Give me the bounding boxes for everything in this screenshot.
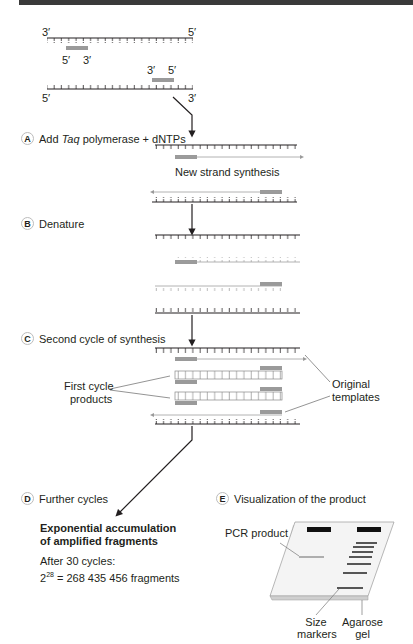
agarose-gel bbox=[270, 522, 394, 600]
step-a-badge: A bbox=[21, 132, 34, 145]
step-b-badge: B bbox=[21, 217, 34, 230]
label-primer2-5prime: 5′ bbox=[168, 64, 176, 77]
step-b: B Denature bbox=[21, 217, 84, 230]
step-d: D Further cycles bbox=[21, 492, 108, 505]
pcr-product-label: PCR product bbox=[225, 527, 288, 540]
first-cycle-product-1 bbox=[175, 366, 282, 384]
step-c-badge: C bbox=[21, 332, 34, 345]
step-a-label-post: polymerase + dNTPs bbox=[80, 133, 186, 145]
label-primer1-3prime: 3′ bbox=[83, 54, 91, 67]
step-a: A Add Taq polymerase + dNTPs bbox=[21, 132, 186, 145]
label-3prime-top: 3′ bbox=[42, 26, 50, 39]
step-e: E Visualization of the product bbox=[216, 492, 366, 505]
label-5prime-bottom: 5′ bbox=[42, 92, 50, 105]
step-e-badge: E bbox=[216, 492, 229, 505]
label-primer1-5prime: 5′ bbox=[62, 54, 70, 67]
first-cycle-product-2 bbox=[175, 387, 282, 405]
step-c: C Second cycle of synthesis bbox=[21, 332, 166, 345]
template-strand-bottom bbox=[47, 84, 193, 89]
label-3prime-bottom: 3′ bbox=[188, 92, 196, 105]
result-detail: After 30 cycles: 228 = 268 435 456 fragm… bbox=[40, 555, 180, 585]
new-strand-synthesis-label: New strand synthesis bbox=[175, 166, 280, 179]
label-5prime-top: 5′ bbox=[188, 26, 196, 39]
primer-1 bbox=[66, 46, 88, 50]
result-heading: Exponential accumulation of amplified fr… bbox=[40, 522, 176, 548]
step-e-label: Visualization of the product bbox=[234, 493, 366, 505]
step-d-label: Further cycles bbox=[39, 493, 108, 505]
label-primer2-3prime: 3′ bbox=[147, 64, 155, 77]
template-strand-top bbox=[47, 38, 193, 43]
step-b-label: Denature bbox=[39, 218, 84, 230]
primer-2 bbox=[152, 78, 174, 82]
step-a-label-italic: Taq bbox=[62, 133, 80, 145]
size-markers-label: Size markers bbox=[297, 616, 335, 640]
first-cycle-products-label: First cycle products bbox=[64, 380, 110, 406]
original-templates-label: Original templates bbox=[332, 378, 380, 404]
step-d-badge: D bbox=[21, 492, 34, 505]
agarose-gel-label: Agarose gel bbox=[340, 616, 385, 640]
step-a-label-pre: Add bbox=[39, 133, 62, 145]
step-c-label: Second cycle of synthesis bbox=[39, 333, 166, 345]
